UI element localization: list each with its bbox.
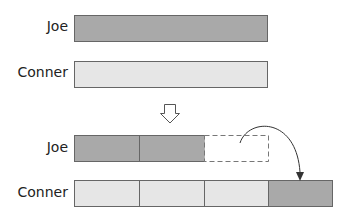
conner-segment-2 <box>140 181 205 207</box>
conner-segment-transferred <box>269 181 333 207</box>
conner-segment-3 <box>205 181 269 207</box>
hollow-down-arrow-icon <box>161 105 180 124</box>
joe-segment-empty <box>205 136 269 162</box>
conner-segment-1 <box>75 181 140 207</box>
diagram <box>0 0 346 213</box>
bar-joe-before <box>75 16 268 42</box>
joe-segment-1 <box>75 136 140 162</box>
bar-conner-before <box>75 62 268 88</box>
joe-segment-2 <box>140 136 205 162</box>
